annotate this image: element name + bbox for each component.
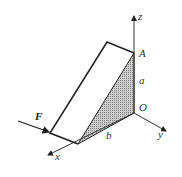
diagram-svg: z A a O y b x F xyxy=(0,0,182,177)
x-axis-label: x xyxy=(54,150,60,162)
force-label: F xyxy=(34,110,43,122)
force-arrow xyxy=(18,121,49,132)
wedge-diagram: z A a O y b x F xyxy=(0,0,182,177)
z-axis-label: z xyxy=(137,10,143,22)
x-axis xyxy=(48,113,134,155)
point-a-label: A xyxy=(138,47,146,59)
origin-label: O xyxy=(139,101,147,113)
dimension-b-label: b xyxy=(106,129,112,141)
y-axis-label: y xyxy=(157,128,163,140)
dimension-a-label: a xyxy=(139,74,145,86)
